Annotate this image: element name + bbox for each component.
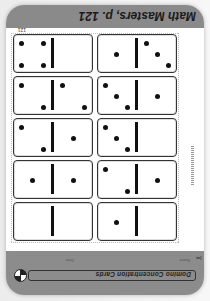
domino-pip bbox=[30, 178, 35, 183]
source-title: Math Masters, p. 121 bbox=[79, 9, 196, 23]
domino-pip bbox=[41, 63, 46, 68]
domino-card bbox=[13, 76, 93, 115]
domino-pip bbox=[19, 83, 24, 88]
domino-divider bbox=[135, 206, 138, 236]
domino-divider bbox=[135, 80, 138, 110]
domino-pip bbox=[114, 136, 119, 141]
everyday-math-logo-icon bbox=[14, 269, 27, 282]
domino-divider bbox=[51, 38, 54, 68]
domino-pip bbox=[114, 220, 119, 225]
domino-divider bbox=[51, 80, 54, 110]
domino-pip bbox=[71, 136, 76, 141]
domino-pip bbox=[19, 125, 24, 130]
domino-pip bbox=[82, 105, 87, 110]
domino-pip bbox=[155, 52, 160, 57]
domino-pip bbox=[71, 178, 76, 183]
domino-card bbox=[13, 202, 93, 241]
domino-pip bbox=[103, 125, 108, 130]
domino-pip bbox=[166, 63, 171, 68]
domino-divider bbox=[51, 122, 54, 152]
domino-pip bbox=[144, 41, 149, 46]
domino-pip bbox=[114, 94, 119, 99]
domino-pip bbox=[41, 147, 46, 152]
domino-card bbox=[97, 202, 177, 241]
name-label: Name bbox=[179, 258, 190, 263]
domino-pip bbox=[19, 63, 24, 68]
domino-card bbox=[13, 118, 93, 157]
domino-pip bbox=[103, 167, 108, 172]
domino-card bbox=[13, 34, 93, 73]
domino-pip bbox=[41, 41, 46, 46]
domino-divider bbox=[135, 164, 138, 194]
domino-pip bbox=[125, 105, 130, 110]
copyright-text bbox=[191, 145, 194, 185]
domino-pip bbox=[103, 83, 108, 88]
domino-grid bbox=[11, 33, 179, 243]
domino-pip bbox=[155, 94, 160, 99]
domino-pip bbox=[114, 52, 119, 57]
date-label: Date bbox=[66, 258, 74, 263]
domino-pip bbox=[19, 41, 24, 46]
domino-card bbox=[13, 160, 93, 199]
domino-card bbox=[97, 118, 177, 157]
domino-pip bbox=[41, 105, 46, 110]
domino-divider bbox=[135, 122, 138, 152]
bottom-band: Math Masters, p. 121 bbox=[6, 5, 204, 28]
domino-pip bbox=[125, 189, 130, 194]
domino-card bbox=[97, 76, 177, 115]
domino-divider bbox=[51, 164, 54, 194]
domino-pip bbox=[125, 147, 130, 152]
scissors-icon: ✂ bbox=[195, 253, 202, 262]
name-date-line: Name Date bbox=[16, 255, 194, 266]
domino-pip bbox=[155, 178, 160, 183]
domino-divider bbox=[135, 38, 138, 68]
worksheet-card: Name Date Domino Concentration Cards ✂ 1… bbox=[6, 5, 204, 295]
domino-pip bbox=[60, 83, 65, 88]
domino-divider bbox=[51, 206, 54, 236]
domino-card bbox=[97, 34, 177, 73]
worksheet-title-banner: Domino Concentration Cards bbox=[28, 270, 196, 281]
domino-card bbox=[97, 160, 177, 199]
worksheet-page: Name Date Domino Concentration Cards ✂ 1… bbox=[0, 0, 210, 301]
